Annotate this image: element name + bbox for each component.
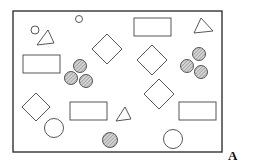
hatched-circle	[65, 72, 78, 85]
rectangle	[179, 102, 216, 120]
triangle	[116, 107, 131, 121]
rectangle	[23, 55, 60, 73]
circle	[164, 130, 183, 149]
triangle	[194, 18, 213, 33]
triangle	[37, 30, 54, 45]
hatched-circle	[103, 133, 118, 148]
diamond	[22, 93, 50, 121]
diamond	[137, 45, 167, 75]
circle	[45, 119, 64, 138]
hatched-circle	[74, 60, 87, 73]
frame-rect	[13, 11, 222, 152]
frame-border	[13, 11, 222, 152]
rectangle	[134, 18, 171, 36]
circle	[76, 16, 83, 23]
diamond	[144, 79, 174, 109]
panel-label: A	[228, 148, 237, 164]
hatched-circle	[80, 75, 93, 88]
hatched-circle	[181, 60, 194, 73]
diamond	[92, 34, 122, 64]
rectangle	[70, 102, 107, 120]
shape-diagram	[0, 0, 253, 167]
figure-panel: A	[0, 0, 253, 167]
shapes-group	[22, 16, 216, 149]
hatched-circle	[195, 66, 208, 79]
hatched-circle	[193, 48, 206, 61]
circle	[31, 26, 39, 34]
